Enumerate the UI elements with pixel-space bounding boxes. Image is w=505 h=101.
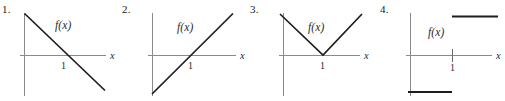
panel-3-function-label: f(x): [308, 22, 324, 34]
panel-4-graph: [373, 0, 505, 101]
panel-3-graph: [246, 0, 373, 101]
panel-2-tick-label: 1: [188, 61, 193, 71]
figure-multi-panel-graphs: 1. f(x) x 1 2. f(x) x 1 3. f(x) x 1: [0, 0, 505, 101]
panel-3: 3. f(x) x 1: [246, 0, 373, 101]
panel-4-function-label: f(x): [428, 27, 444, 39]
panel-2-graph: [120, 0, 246, 101]
panel-4-tick-label: 1: [450, 63, 455, 73]
panel-2-x-axis-label: x: [240, 51, 245, 62]
panel-1-function-label: f(x): [55, 20, 71, 32]
panel-1-x-axis-label: x: [110, 51, 115, 62]
panel-2: 2. f(x) x 1: [120, 0, 246, 101]
panel-1-graph: [0, 0, 120, 101]
panel-1: 1. f(x) x 1: [0, 0, 120, 101]
panel-3-tick-label: 1: [320, 61, 325, 71]
panel-2-function-label: f(x): [177, 22, 193, 34]
panel-4-x-axis-label: x: [496, 51, 501, 62]
panel-3-x-axis-label: x: [364, 51, 369, 62]
panel-1-tick-label: 1: [61, 61, 66, 71]
panel-4: 4. f(x) x 1: [373, 0, 505, 101]
